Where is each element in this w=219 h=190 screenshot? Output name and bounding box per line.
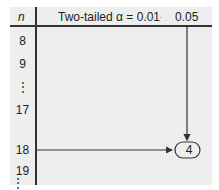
bottom-ellipsis: ⋮ (12, 176, 24, 190)
critical-value: 4 (178, 143, 200, 157)
lookup-arrows: ⋮ (0, 0, 219, 190)
